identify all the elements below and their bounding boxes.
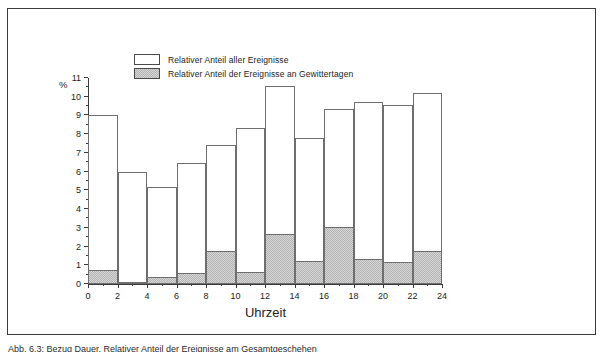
y-axis-minor-tick xyxy=(86,86,88,87)
x-axis-tick xyxy=(324,284,325,288)
x-axis-minor-tick xyxy=(103,284,104,286)
x-axis-tick-label: 16 xyxy=(319,291,329,301)
legend-swatch-white-icon xyxy=(134,54,160,65)
x-axis-tick-label: 8 xyxy=(203,291,208,301)
x-axis-minor-tick xyxy=(427,284,428,286)
y-axis-tick-label: 3 xyxy=(76,223,81,233)
bar-thunderstorm-days xyxy=(88,270,118,284)
y-axis-tick-label: 7 xyxy=(76,148,81,158)
x-axis-tick-label: 18 xyxy=(348,291,358,301)
x-axis-tick-label: 12 xyxy=(260,291,270,301)
x-axis-tick xyxy=(88,284,89,288)
figure-caption: Abb. 6.3: Bezug Dauer, Relativer Anteil … xyxy=(8,344,317,352)
y-axis-tick-label: 2 xyxy=(76,242,81,252)
bar-all-events xyxy=(354,102,384,284)
x-axis-minor-tick xyxy=(309,284,310,286)
x-axis-title: Uhrzeit xyxy=(88,305,443,320)
bar-all-events xyxy=(118,172,148,284)
x-axis-tick xyxy=(265,284,266,288)
x-axis-tick xyxy=(383,284,384,288)
x-axis-tick xyxy=(295,284,296,288)
x-axis-tick-label: 0 xyxy=(85,291,90,301)
x-axis-tick xyxy=(118,284,119,288)
x-axis-minor-tick xyxy=(221,284,222,286)
bar-thunderstorm-days xyxy=(236,272,266,284)
x-axis-minor-tick xyxy=(280,284,281,286)
y-axis-tick-label: 0 xyxy=(76,279,81,289)
bar-thunderstorm-days xyxy=(118,282,148,284)
y-axis-tick xyxy=(84,96,88,97)
bar-thunderstorm-days xyxy=(354,259,384,284)
x-axis-tick xyxy=(206,284,207,288)
x-axis-tick-label: 22 xyxy=(407,291,417,301)
x-axis-tick-label: 6 xyxy=(174,291,179,301)
x-axis-minor-tick xyxy=(162,284,163,286)
figure-page: Relativer Anteil aller Ereignisse Relati… xyxy=(0,0,605,352)
x-axis-tick xyxy=(147,284,148,288)
bar-all-events xyxy=(177,163,207,284)
x-axis-tick xyxy=(177,284,178,288)
y-axis-tick xyxy=(84,77,88,78)
bar-all-events xyxy=(236,128,266,284)
x-axis-minor-tick xyxy=(368,284,369,286)
y-axis-tick-label: 5 xyxy=(76,185,81,195)
x-axis-minor-tick xyxy=(339,284,340,286)
x-axis-tick-label: 10 xyxy=(230,291,240,301)
x-axis-tick xyxy=(413,284,414,288)
y-axis-tick-label: 11 xyxy=(72,73,81,83)
bar-thunderstorm-days xyxy=(295,261,325,284)
x-axis-tick-label: 2 xyxy=(115,291,120,301)
x-axis-tick-label: 24 xyxy=(437,291,447,301)
legend-entry-all-events: Relativer Anteil aller Ereignisse xyxy=(134,53,394,66)
bar-thunderstorm-days xyxy=(413,251,443,284)
legend-label-thunderstorm-days: Relativer Anteil der Ereignisse an Gewit… xyxy=(168,69,353,79)
x-axis-minor-tick xyxy=(250,284,251,286)
bar-all-events xyxy=(88,115,118,284)
bar-thunderstorm-days xyxy=(383,262,413,284)
x-axis-tick xyxy=(236,284,237,288)
x-axis-tick-label: 14 xyxy=(289,291,299,301)
bar-thunderstorm-days xyxy=(265,234,295,284)
legend-label-all-events: Relativer Anteil aller Ereignisse xyxy=(168,55,288,65)
x-axis-tick-label: 4 xyxy=(144,291,149,301)
y-axis-unit-label: % xyxy=(59,79,67,90)
x-axis-minor-tick xyxy=(132,284,133,286)
y-axis-tick-label: 8 xyxy=(76,129,81,139)
bar-all-events xyxy=(147,187,177,284)
x-axis-tick xyxy=(354,284,355,288)
y-axis-minor-tick xyxy=(86,105,88,106)
bar-thunderstorm-days xyxy=(177,273,207,284)
y-axis-tick-label: 1 xyxy=(76,260,81,270)
chart-legend: Relativer Anteil aller Ereignisse Relati… xyxy=(134,53,394,81)
bar-all-events xyxy=(383,105,413,284)
y-axis-tick-label: 4 xyxy=(76,204,81,214)
x-axis-tick xyxy=(442,284,443,288)
x-axis-tick-label: 20 xyxy=(378,291,388,301)
y-axis-tick-label: 6 xyxy=(76,167,81,177)
y-axis-tick-label: 10 xyxy=(71,92,81,102)
x-axis-minor-tick xyxy=(398,284,399,286)
plot-area: 01234567891011024681012141618202224 xyxy=(88,78,442,284)
x-axis-minor-tick xyxy=(191,284,192,286)
bar-thunderstorm-days xyxy=(324,227,354,284)
bar-thunderstorm-days xyxy=(206,251,236,284)
bar-thunderstorm-days xyxy=(147,277,177,284)
y-axis-tick-label: 9 xyxy=(76,110,81,120)
